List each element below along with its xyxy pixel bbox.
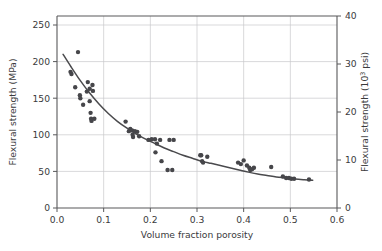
data-point (88, 111, 92, 115)
y-axis-right-label-tail: psi) (359, 52, 370, 72)
y-right-tick-label: 20 (345, 106, 357, 117)
x-axis-ticks: 0.00.10.20.30.40.50.6 (50, 208, 345, 225)
data-point (252, 166, 256, 170)
data-point (155, 141, 159, 145)
x-tick-label: 0.6 (330, 214, 345, 225)
data-point (239, 162, 243, 166)
data-point (205, 155, 209, 159)
y-axis-left-label: Flexural strength (MPa) (7, 59, 18, 166)
y-left-tick-label: 100 (32, 129, 50, 140)
data-point (153, 137, 157, 141)
x-axis-label: Volume fraction porosity (141, 229, 254, 240)
data-point (171, 138, 175, 142)
data-point (76, 50, 80, 54)
data-point (292, 177, 296, 181)
x-tick-label: 0.5 (283, 214, 298, 225)
data-point (87, 99, 91, 103)
data-point (131, 135, 135, 139)
y-right-tick-label: 0 (345, 202, 351, 213)
data-point (159, 159, 163, 163)
y-right-tick-label: 10 (345, 154, 357, 165)
data-point (167, 138, 171, 142)
x-tick-label: 0.3 (190, 214, 205, 225)
y-right-tick-label: 40 (345, 10, 357, 21)
y-axis-left-ticks: 050100150200250 (32, 19, 57, 213)
data-point (123, 119, 127, 123)
data-point (158, 138, 162, 142)
data-point (307, 177, 311, 181)
data-point (73, 85, 77, 89)
data-point (135, 130, 139, 134)
data-point (165, 168, 169, 172)
data-point (153, 150, 157, 154)
y-left-tick-label: 0 (44, 202, 50, 213)
data-point (86, 80, 90, 84)
y-left-tick-label: 50 (38, 166, 50, 177)
chart-canvas: 0.00.10.20.30.40.50.6 050100150200250 01… (0, 0, 382, 251)
fit-curve (63, 54, 313, 180)
x-tick-label: 0.0 (50, 214, 65, 225)
data-point (201, 160, 205, 164)
y-axis-right-ticks: 010203040 (337, 10, 357, 213)
y-axis-right-label: Flexural strength (103 psi) (359, 52, 370, 172)
data-point (269, 165, 273, 169)
data-point (92, 117, 96, 121)
scatter-data-points (68, 50, 311, 182)
data-point (241, 158, 245, 162)
data-point (69, 72, 73, 76)
data-point (78, 96, 82, 100)
y-right-tick-label: 30 (345, 58, 357, 69)
flexural-strength-porosity-chart: 0.00.10.20.30.40.50.6 050100150200250 01… (0, 0, 382, 251)
y-axis-right-label-base: Flexural strength (10 (359, 76, 370, 173)
data-point (170, 168, 174, 172)
y-left-tick-label: 250 (32, 19, 50, 30)
data-point (91, 89, 95, 93)
x-tick-label: 0.2 (143, 214, 158, 225)
x-tick-label: 0.1 (96, 214, 111, 225)
x-tick-label: 0.4 (236, 214, 251, 225)
data-point (90, 83, 94, 87)
data-point (81, 103, 85, 107)
y-axis-right-label-group: Flexural strength (103 psi) (359, 52, 370, 172)
data-point (199, 153, 203, 157)
y-left-tick-label: 150 (32, 93, 50, 104)
y-left-tick-label: 200 (32, 56, 50, 67)
data-point (137, 134, 141, 138)
